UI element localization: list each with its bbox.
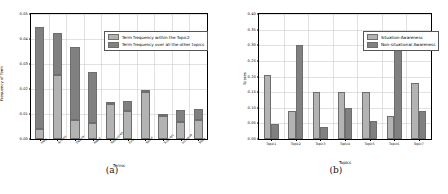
bar-stacked (88, 72, 97, 139)
legend-label-within-topic: Term frequency within the Topic2 (122, 35, 190, 40)
bar-segment-within-topic (106, 104, 115, 139)
y-tick-mark (257, 92, 259, 93)
bar-segment-within-topic (70, 120, 79, 140)
y-tick-label: 0.40 (248, 12, 256, 16)
y-tick-mark (29, 14, 31, 15)
x-tick-label: Topic2 (291, 142, 301, 146)
bar-segment-other-topics (35, 27, 44, 130)
gridline-horizontal (259, 77, 431, 78)
y-tick-label: 0.30 (248, 43, 256, 47)
bar-situation-awareness (313, 92, 320, 139)
y-tick-label: 0.03 (20, 62, 28, 66)
bar-stacked (194, 109, 203, 139)
legend-swatch-non-situational-awareness (367, 42, 378, 48)
bar-segment-within-topic (35, 129, 44, 139)
y-tick-label: 0.01 (20, 112, 28, 116)
x-tick-label: Topic4 (340, 142, 350, 146)
panel-b-plot-area: Situation-Awareness Non-situational Awar… (224, 0, 448, 162)
gridline-horizontal (259, 92, 431, 93)
y-tick-mark (29, 139, 31, 140)
bar-segment-other-topics (106, 102, 115, 104)
y-tick-label: 0.00 (20, 137, 28, 141)
legend-swatch-within-topic (108, 34, 119, 40)
panel-a-legend: Term frequency within the Topic2 Term fr… (104, 31, 208, 51)
gridline-vertical (308, 14, 309, 139)
panel-b-caption: (b) (224, 165, 448, 175)
bar-segment-other-topics (158, 114, 167, 116)
bar-situation-awareness (288, 111, 295, 139)
y-tick-mark (29, 39, 31, 40)
bar-stacked (35, 27, 44, 140)
legend-entry-within-topic: Term frequency within the Topic2 (108, 34, 204, 40)
bar-non-situational-awareness (296, 45, 303, 139)
bar-non-situational-awareness (370, 121, 377, 139)
bar-non-situational-awareness (320, 127, 327, 140)
y-tick-mark (257, 14, 259, 15)
bar-situation-awareness (264, 75, 271, 139)
bar-segment-other-topics (194, 109, 203, 120)
y-tick-label: 0.25 (248, 59, 256, 63)
gridline-vertical (357, 14, 358, 139)
bar-stacked (176, 110, 185, 139)
panel-a: Term frequency within the Topic2 Term fr… (0, 0, 224, 194)
x-tick-label: Topic1 (266, 142, 276, 146)
y-tick-mark (257, 60, 259, 61)
legend-entry-non-situational-awareness: Non-situational Awareness (367, 42, 435, 48)
gridline-vertical (333, 14, 334, 139)
y-tick-mark (29, 89, 31, 90)
x-tick-label: Topic3 (315, 142, 325, 146)
bar-segment-within-topic (194, 120, 203, 139)
panel-b-y-axis-label: Scores (242, 72, 247, 85)
y-tick-label: 0.04 (20, 37, 28, 41)
y-tick-mark (257, 139, 259, 140)
bar-non-situational-awareness (419, 111, 426, 139)
bar-segment-other-topics (176, 110, 185, 122)
bar-situation-awareness (387, 116, 394, 139)
y-tick-label: 0.10 (248, 106, 256, 110)
bar-segment-within-topic (176, 122, 185, 140)
y-tick-mark (29, 64, 31, 65)
bar-segment-other-topics (123, 101, 132, 111)
bar-situation-awareness (411, 83, 418, 139)
panel-b-axes: Situation-Awareness Non-situational Awar… (258, 13, 432, 140)
y-tick-label: 0.05 (248, 121, 256, 125)
y-tick-mark (257, 45, 259, 46)
y-tick-label: 0.02 (20, 87, 28, 91)
bar-stacked (158, 115, 167, 139)
x-tick-label: Topic6 (389, 142, 399, 146)
bar-stacked (141, 92, 150, 140)
y-tick-mark (29, 114, 31, 115)
bar-situation-awareness (338, 92, 345, 139)
panel-b: Situation-Awareness Non-situational Awar… (224, 0, 448, 194)
bar-non-situational-awareness (345, 108, 352, 139)
panel-a-axes: Term frequency within the Topic2 Term fr… (30, 13, 208, 140)
bar-segment-other-topics (88, 72, 97, 123)
y-tick-mark (257, 123, 259, 124)
gridline-horizontal (259, 61, 431, 62)
bar-non-situational-awareness (394, 36, 401, 139)
panel-b-legend: Situation-Awareness Non-situational Awar… (363, 31, 439, 51)
bar-segment-within-topic (141, 92, 150, 140)
bar-stacked (53, 33, 62, 140)
legend-entry-other-topics: Term frequency over all the other topics (108, 42, 204, 48)
x-tick-mark (419, 139, 420, 141)
y-tick-label: 0.20 (248, 75, 256, 79)
legend-label-situation-awareness: Situation-Awareness (381, 35, 423, 40)
y-tick-label: 0.00 (248, 137, 256, 141)
x-tick-mark (370, 139, 371, 141)
legend-entry-situation-awareness: Situation-Awareness (367, 34, 435, 40)
gridline-vertical (66, 14, 67, 139)
y-tick-label: 0.35 (248, 28, 256, 32)
x-tick-label: Topic7 (414, 142, 424, 146)
gridline-vertical (49, 14, 50, 139)
x-tick-mark (296, 139, 297, 141)
bar-segment-other-topics (53, 33, 62, 76)
legend-swatch-situation-awareness (367, 34, 378, 40)
bar-non-situational-awareness (271, 124, 278, 139)
x-tick-mark (394, 139, 395, 141)
bar-stacked (70, 47, 79, 139)
y-tick-label: 0.15 (248, 90, 256, 94)
bar-stacked (106, 103, 115, 139)
gridline-horizontal (259, 14, 431, 15)
figure-two-panel-bar-charts: Term frequency within the Topic2 Term fr… (0, 0, 448, 194)
